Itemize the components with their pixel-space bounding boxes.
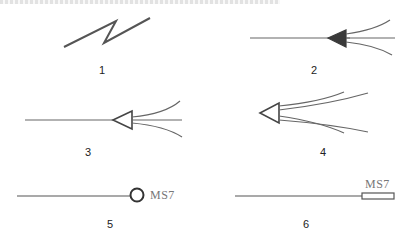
symbol-6-label: 6	[296, 218, 316, 230]
symbol-4-label: 4	[313, 146, 333, 158]
symbol-3-hollow-arrow-icon	[25, 101, 182, 137]
symbol-2-filled-arrow-icon	[250, 20, 395, 55]
symbol-6-rect-terminal-icon	[235, 193, 394, 199]
symbol-5-tag: MS7	[150, 188, 175, 203]
symbol-5-circle-terminal-icon	[17, 189, 144, 202]
diagram-canvas	[0, 0, 409, 240]
symbol-5-label: 5	[100, 218, 120, 230]
symbol-2-label: 2	[304, 64, 324, 76]
symbol-3-label: 3	[78, 146, 98, 158]
symbol-6-tag: MS7	[365, 177, 390, 192]
symbol-1-label: 1	[92, 64, 112, 76]
symbol-1-zigzag-icon	[64, 18, 150, 47]
symbol-4-hollow-arrow-multi-icon	[260, 92, 368, 133]
